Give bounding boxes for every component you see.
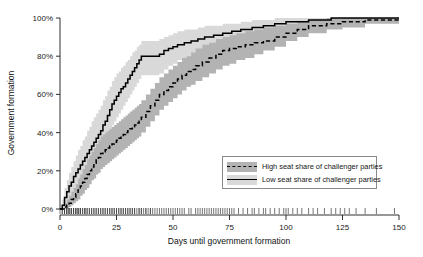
rug-plot-marks bbox=[60, 208, 394, 214]
y-axis-tick-label: 20% bbox=[37, 167, 53, 176]
legend-item-high-seat-share: High seat share of challenger parties bbox=[227, 160, 372, 173]
legend-label-low-seat-share: Low seat share of challenger parties bbox=[262, 174, 381, 186]
y-axis-tick-label: 80% bbox=[37, 52, 53, 61]
y-axis-tick-label: 40% bbox=[37, 129, 53, 138]
y-axis-title: Government formation bbox=[6, 70, 16, 155]
legend-key-solid-icon bbox=[227, 174, 257, 186]
x-axis-ticks bbox=[60, 215, 399, 220]
x-axis-tick-label: 150 bbox=[392, 223, 406, 232]
x-axis-tick-labels: 0255075100125150 bbox=[58, 223, 406, 232]
y-axis-tick-label: 60% bbox=[37, 90, 53, 99]
y-axis-tick-labels: 0%20%40%60%80%100% bbox=[33, 14, 53, 214]
legend-item-low-seat-share: Low seat share of challenger parties bbox=[227, 173, 372, 186]
y-axis-tick-label: 0% bbox=[41, 205, 53, 214]
x-axis-tick-label: 25 bbox=[112, 223, 121, 232]
x-axis-tick-label: 100 bbox=[279, 223, 293, 232]
legend: High seat share of challenger parties Lo… bbox=[222, 156, 377, 189]
plot-area: 0%20%40%60%80%100% 0255075100125150 Gove… bbox=[0, 0, 423, 257]
x-axis-title: Days until government formation bbox=[168, 236, 291, 246]
x-axis-tick-label: 75 bbox=[225, 223, 234, 232]
survival-chart-figure: 0%20%40%60%80%100% 0255075100125150 Gove… bbox=[0, 0, 423, 257]
x-axis-tick-label: 50 bbox=[169, 223, 178, 232]
legend-key-dashed-icon bbox=[227, 161, 257, 173]
x-axis-tick-label: 0 bbox=[58, 223, 63, 232]
x-axis-tick-label: 125 bbox=[336, 223, 350, 232]
y-axis-tick-label: 100% bbox=[33, 14, 53, 23]
legend-label-high-seat-share: High seat share of challenger parties bbox=[262, 161, 382, 173]
y-axis-ticks bbox=[56, 18, 60, 209]
